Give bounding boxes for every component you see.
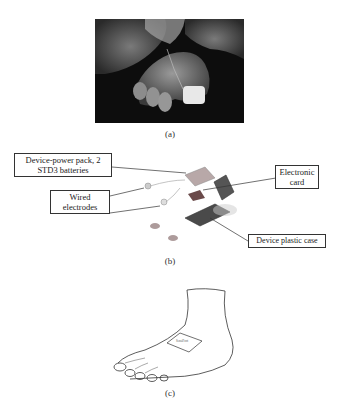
foot-photo-illustration bbox=[95, 19, 244, 123]
panel-c-caption: (c) bbox=[155, 388, 185, 398]
callout-electronic-card: Electronic card bbox=[275, 165, 319, 189]
panel-c-foot-drawing: SensiFoot bbox=[110, 285, 250, 385]
panel-a-photo bbox=[95, 19, 244, 123]
callout-plastic-case: Device plastic case bbox=[248, 234, 326, 248]
callout-power-pack: Device-power pack, 2 STD3 batteries bbox=[14, 153, 112, 177]
power-pack-shape bbox=[185, 167, 215, 186]
callout-wired-electrodes: Wired electrodes bbox=[50, 190, 110, 214]
panel-a-caption: (a) bbox=[155, 129, 185, 139]
foot-outline-illustration bbox=[110, 285, 250, 385]
panel-b-caption: (b) bbox=[155, 256, 185, 266]
panel-b-diagram: Device-power pack, 2 STD3 batteries Wire… bbox=[0, 140, 341, 265]
sensor-patch-label: SensiFoot bbox=[176, 339, 188, 343]
